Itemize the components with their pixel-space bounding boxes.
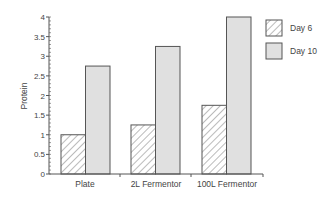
bar-day-10-2l-fermentor [156, 46, 181, 174]
y-tick-label: 2 [41, 92, 46, 101]
y-tick-label: 0.5 [34, 150, 46, 159]
x-category-label: 100L Fermentor [197, 179, 257, 189]
bar-day-6-plate [61, 135, 86, 174]
y-tick-label: 4 [41, 13, 46, 22]
y-tick-label: 2.5 [34, 72, 46, 81]
bar-day-6-2l-fermentor [131, 125, 156, 174]
bar-day-6-100l-fermentor [202, 105, 227, 174]
legend-label: Day 6 [290, 23, 312, 33]
y-tick-label: 1 [41, 131, 46, 140]
y-tick-label: 3.5 [34, 33, 46, 42]
x-category-label: Plate [75, 179, 95, 189]
y-axis: 00.511.522.533.54 [34, 13, 51, 179]
bar-day-10-plate [86, 66, 111, 174]
bar-chart: 00.511.522.533.54 Plate2L Fermentor100L … [0, 0, 329, 199]
y-axis-title: Protein [19, 82, 29, 109]
legend: Day 6Day 10 [266, 20, 317, 59]
x-category-label: 2L Fermentor [131, 179, 182, 189]
bar-day-10-100l-fermentor [227, 17, 252, 174]
legend-label: Day 10 [290, 46, 317, 56]
y-tick-label: 0 [41, 170, 46, 179]
legend-swatch-day-10 [266, 43, 282, 59]
y-tick-label: 1.5 [34, 111, 46, 120]
y-tick-label: 3 [41, 52, 46, 61]
x-axis: Plate2L Fermentor100L Fermentor [49, 174, 263, 189]
bars [61, 17, 251, 174]
legend-swatch-day-6 [266, 20, 282, 36]
